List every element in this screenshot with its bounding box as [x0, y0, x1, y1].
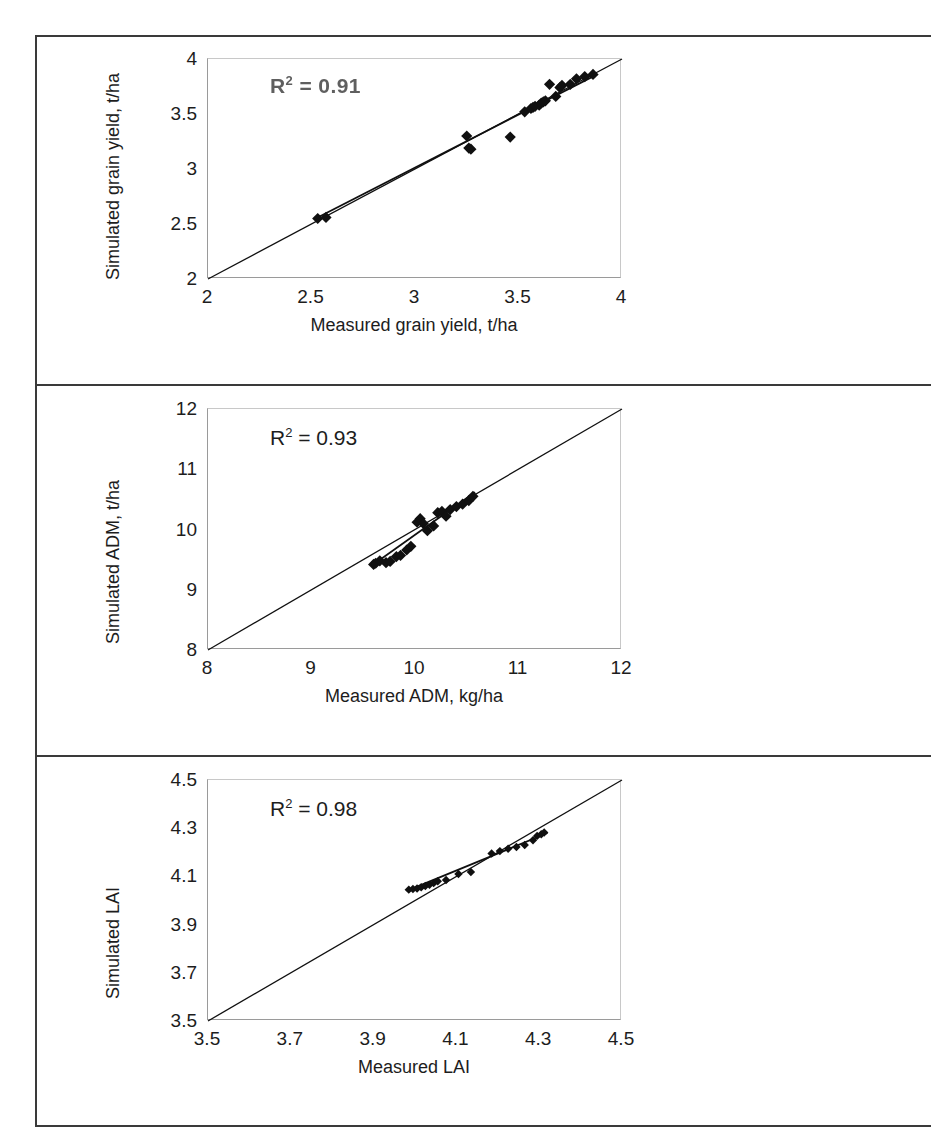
x-axis-tick-label: 2: [202, 287, 213, 306]
data-point-marker: [320, 212, 331, 223]
y-axis-tick-label: 12: [151, 399, 197, 418]
data-point-marker: [504, 844, 512, 852]
y-axis-tick-label: 3.5: [151, 1011, 197, 1030]
y-axis-title-lai: Simulated LAI: [103, 887, 124, 999]
r-squared-annotation-lai: R2 = 0.98: [270, 797, 357, 821]
chart-panel-adm: R2 = 0.93 89101112 89101112 Measured ADM…: [37, 386, 917, 755]
x-axis-tick-label: 12: [610, 658, 631, 677]
y-axis-tick-label: 3: [151, 159, 197, 178]
y-axis-title-adm: Simulated ADM, t/ha: [103, 480, 124, 644]
r-squared-value: = 0.98: [292, 797, 357, 820]
r-squared-annotation-grain-yield: R2 = 0.91: [270, 74, 361, 98]
x-axis-tick-label: 4.3: [525, 1029, 551, 1048]
x-axis-tick-label: 10: [403, 658, 424, 677]
x-axis-tick-label: 11: [508, 658, 528, 677]
x-axis-tick-label: 4.5: [608, 1029, 634, 1048]
y-axis-tick-label: 3.9: [151, 914, 197, 933]
r-squared-value: = 0.91: [293, 74, 361, 97]
chart-panel-lai: R2 = 0.98 3.53.73.94.14.34.5 3.53.73.94.…: [37, 757, 917, 1125]
y-axis-tick-label: 11: [151, 459, 197, 478]
chart-panel-grain-yield: R2 = 0.91 22.533.54 22.533.54 Measured g…: [37, 37, 917, 384]
x-axis-tick-label: 4: [616, 287, 627, 306]
y-axis-tick-label: 9: [151, 579, 197, 598]
x-axis-tick-label: 2.5: [297, 287, 323, 306]
x-axis-tick-label: 3.5: [504, 287, 530, 306]
y-axis-tick-label: 4.3: [151, 818, 197, 837]
regression-line: [407, 833, 548, 891]
y-axis-tick-label: 4.1: [151, 866, 197, 885]
x-axis-title-adm: Measured ADM, kg/ha: [325, 686, 503, 707]
y-axis-tick-label: 4.5: [151, 770, 197, 789]
data-point-marker: [505, 132, 516, 143]
r-symbol: R: [270, 74, 286, 97]
y-axis-tick-label: 2.5: [151, 214, 197, 233]
frame-bottom-rule: [35, 1125, 931, 1127]
y-axis-tick-label: 4: [151, 49, 197, 68]
x-axis-tick-label: 4.1: [442, 1029, 468, 1048]
x-axis-tick-label: 3.9: [359, 1029, 385, 1048]
x-axis-title-grain-yield: Measured grain yield, t/ha: [310, 315, 517, 336]
r-symbol: R: [270, 797, 285, 820]
y-axis-tick-label: 10: [151, 519, 197, 538]
x-axis-tick-label: 3.5: [194, 1029, 220, 1048]
x-axis-title-lai: Measured LAI: [358, 1057, 470, 1078]
figure-sheet: R2 = 0.91 22.533.54 22.533.54 Measured g…: [0, 0, 931, 1144]
y-axis-tick-label: 2: [151, 269, 197, 288]
y-axis-tick-label: 3.7: [151, 962, 197, 981]
r-symbol: R: [270, 426, 285, 449]
x-axis-tick-label: 3.7: [277, 1029, 303, 1048]
y-axis-tick-label: 8: [151, 640, 197, 659]
data-point-marker: [442, 876, 450, 884]
r-squared-value: = 0.93: [292, 426, 357, 449]
r-squared-annotation-adm: R2 = 0.93: [270, 426, 357, 450]
data-point-marker: [544, 79, 555, 90]
x-axis-tick-label: 8: [202, 658, 213, 677]
y-axis-title-grain-yield: Simulated grain yield, t/ha: [103, 73, 124, 280]
y-axis-tick-label: 3.5: [151, 104, 197, 123]
x-axis-tick-label: 3: [409, 287, 420, 306]
x-axis-tick-label: 9: [305, 658, 316, 677]
